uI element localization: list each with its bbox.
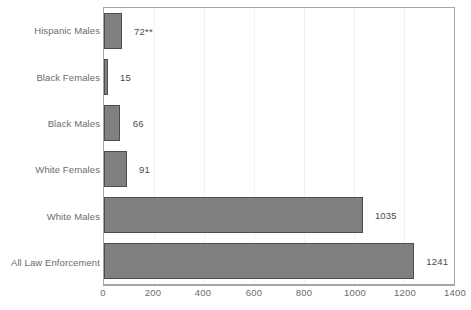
x-tick-1200: 1200 — [394, 287, 416, 298]
x-tick-400: 400 — [195, 287, 211, 298]
bar-value-white-males: 1035 — [375, 210, 397, 221]
x-tick-800: 800 — [296, 287, 312, 298]
bar-white-females — [104, 151, 127, 187]
bar-row-white-females: 91 — [104, 151, 454, 187]
bar-black-males — [104, 105, 120, 141]
category-label-white-males: White Males — [0, 210, 100, 221]
bar-row-black-males: 66 — [104, 105, 454, 141]
plot-area: 72** 15 66 91 1035 1241 — [103, 7, 455, 285]
x-tick-600: 600 — [246, 287, 262, 298]
bar-value-black-females: 15 — [120, 71, 131, 82]
x-tick-0: 0 — [100, 287, 105, 298]
category-label-hispanic-males: Hispanic Males — [0, 25, 100, 36]
category-label-white-females: White Females — [0, 164, 100, 175]
bar-value-black-males: 66 — [133, 118, 144, 129]
x-tick-200: 200 — [145, 287, 161, 298]
bar-row-hispanic-males: 72** — [104, 13, 454, 49]
category-label-black-females: Black Females — [0, 71, 100, 82]
x-tick-1400: 1400 — [444, 287, 466, 298]
bar-value-white-females: 91 — [139, 164, 150, 175]
category-label-black-males: Black Males — [0, 117, 100, 128]
bar-all-law-enforcement — [104, 243, 414, 279]
bar-row-black-females: 15 — [104, 59, 454, 95]
bar-hispanic-males — [104, 13, 122, 49]
x-axis-tick-labels: 0 200 400 600 800 1000 1200 1400 — [0, 287, 471, 307]
category-axis-labels: Hispanic Males Black Females Black Males… — [0, 7, 100, 285]
category-label-all-law-enforcement: All Law Enforcement — [0, 256, 100, 267]
bar-row-all-law-enforcement: 1241 — [104, 243, 454, 279]
x-tick-1000: 1000 — [344, 287, 366, 298]
bar-value-hispanic-males: 72** — [134, 25, 153, 36]
bar-chart: Hispanic Males Black Females Black Males… — [0, 0, 471, 310]
bar-value-all-law-enforcement: 1241 — [426, 256, 448, 267]
bar-black-females — [104, 59, 108, 95]
bar-white-males — [104, 197, 363, 233]
bar-row-white-males: 1035 — [104, 197, 454, 233]
x-axis-line — [103, 285, 455, 286]
